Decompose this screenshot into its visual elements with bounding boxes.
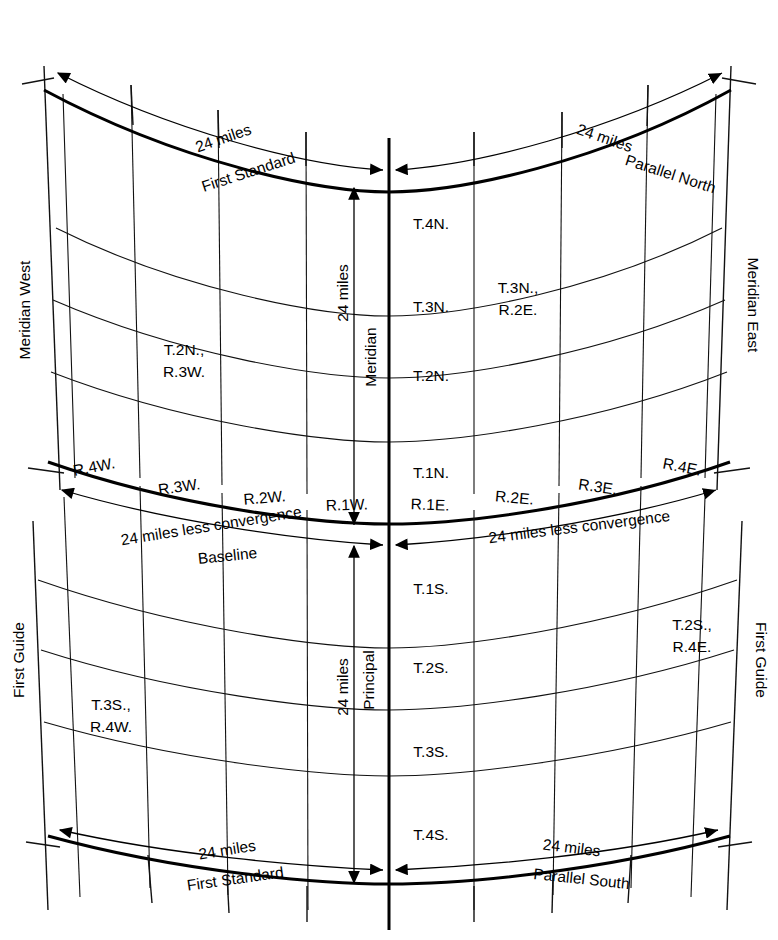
range-line-e4-upper bbox=[705, 94, 716, 478]
range-line-w1-upper bbox=[306, 132, 307, 494]
range-line-w4-lower bbox=[64, 497, 80, 897]
corner-stub-mid-right bbox=[714, 468, 750, 473]
range-line-e2-upper bbox=[559, 112, 562, 486]
township-label-t2n: T.2N. bbox=[413, 367, 449, 384]
corner-stub-bottom-left bbox=[26, 842, 60, 847]
township-label-t4n: T.4N. bbox=[413, 215, 449, 232]
township-label-t2s: T.2S. bbox=[413, 659, 448, 676]
tick-bottom-w3 bbox=[148, 855, 152, 903]
township-label-t4s: T.4S. bbox=[413, 826, 448, 843]
range-line-w2-upper bbox=[218, 110, 222, 485]
corner-stub-bottom-right bbox=[718, 842, 752, 847]
dim-label-top-left: 24 miles bbox=[193, 120, 253, 155]
cell-label-t3s-r4w-line1: T.3S., bbox=[91, 696, 131, 713]
cell-label-t3s-r4w-line2: R.4W. bbox=[90, 718, 132, 735]
range-line-e3-lower bbox=[631, 486, 641, 888]
meridian-east-line bbox=[717, 66, 731, 490]
range-line-w3-upper bbox=[131, 85, 140, 478]
plss-diagram: 24 miles First Standard 24 miles Paralle… bbox=[0, 0, 778, 940]
corner-stub-top-left bbox=[22, 78, 54, 84]
first-guide-meridian-east-line bbox=[727, 521, 742, 910]
range-label-e4: R.4E. bbox=[661, 455, 702, 479]
cell-label-t3n-r2e-line2: R.2E. bbox=[499, 301, 538, 318]
range-line-e3-upper bbox=[641, 85, 648, 478]
corner-stub-top-right bbox=[722, 78, 756, 84]
label-parallel-north: Parallel North bbox=[623, 151, 718, 196]
label-meridian-west: Meridian West bbox=[16, 260, 33, 359]
range-label-w2: R.2W. bbox=[243, 487, 287, 508]
range-line-e4-lower bbox=[691, 497, 705, 897]
range-line-w4-upper bbox=[63, 94, 75, 478]
label-first-guide-west: First Guide bbox=[10, 622, 27, 698]
plss-survey-svg: 24 miles First Standard 24 miles Paralle… bbox=[0, 0, 778, 940]
dim-label-vertical-upper: 24 miles bbox=[334, 264, 351, 322]
range-line-w3-lower bbox=[140, 486, 150, 888]
dim-label-vertical-lower: 24 miles bbox=[334, 658, 351, 716]
cell-label-t2s-r4e-line2: R.4E. bbox=[673, 638, 712, 655]
tick-top-e4 bbox=[647, 85, 648, 126]
range-label-w3: R.3W. bbox=[157, 475, 201, 498]
range-label-e1: R.1E. bbox=[411, 495, 450, 513]
cell-label-t2s-r4e-line1: T.2S., bbox=[672, 616, 712, 633]
cell-label-t3n-r2e-line1: T.3N., bbox=[498, 279, 538, 296]
label-principal-vertical: Principal bbox=[360, 650, 377, 709]
label-meridian-east: Meridian East bbox=[745, 258, 762, 353]
cell-label-t2n-r3w-line2: R.3W. bbox=[163, 363, 205, 380]
range-label-e2: R.2E. bbox=[494, 487, 534, 507]
township-label-t3n: T.3N. bbox=[413, 298, 449, 315]
township-label-t1s: T.1S. bbox=[413, 580, 448, 597]
range-line-w1-lower bbox=[307, 510, 308, 910]
dim-arrow-top-right bbox=[396, 73, 722, 170]
range-label-w1: R.1W. bbox=[325, 495, 368, 513]
township-label-t1n: T.1N. bbox=[413, 464, 449, 481]
label-first-standard-top: First Standard bbox=[199, 149, 297, 195]
dim-label-bottom-right: 24 miles bbox=[542, 836, 602, 860]
cell-label-t2n-r3w-line1: T.2N., bbox=[164, 341, 204, 358]
township-label-t3s: T.3S. bbox=[413, 743, 448, 760]
label-meridian-vertical: Meridian bbox=[362, 327, 379, 386]
dim-label-top-right: 24 miles bbox=[575, 120, 635, 155]
range-label-e3: R.3E. bbox=[577, 475, 618, 497]
dim-label-mid-left: 24 miles less convergence bbox=[120, 503, 303, 548]
label-baseline: Baseline bbox=[197, 544, 258, 567]
meridian-west-line bbox=[44, 66, 60, 490]
label-parallel-south: Parallel South bbox=[533, 865, 631, 892]
first-guide-meridian-west-line bbox=[33, 521, 48, 910]
label-first-guide-east: First Guide bbox=[753, 622, 770, 698]
